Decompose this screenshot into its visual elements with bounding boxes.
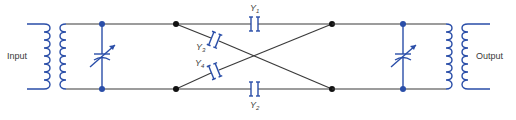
capacitor-label-Y2: Y2	[250, 100, 260, 111]
junction-dot-icon	[400, 86, 406, 92]
capacitor-Y4	[207, 63, 222, 80]
junction-dot-icon	[99, 86, 105, 92]
input-transformer: Input	[7, 24, 66, 89]
junction-dot-icon	[173, 86, 179, 92]
input-primary-coil	[27, 24, 50, 89]
output-primary-coil	[446, 24, 452, 89]
capacitor-label-Y1: Y1	[250, 3, 259, 14]
lattice-section: Y1 Y2 Y3	[173, 3, 335, 111]
capacitor-Y3	[207, 31, 222, 48]
input-secondary-coil	[60, 24, 66, 89]
capacitor-Y1: Y1	[249, 3, 260, 31]
output-transformer: Output	[446, 24, 504, 89]
capacitor-label-Y4: Y4	[195, 58, 205, 69]
capacitor-label-Y3: Y3	[196, 42, 206, 53]
input-variable-capacitor	[90, 21, 115, 92]
output-label: Output	[476, 51, 504, 61]
junction-dot-icon	[400, 21, 406, 27]
output-variable-capacitor	[391, 21, 416, 92]
lattice-circuit-diagram: Input Y1	[0, 0, 516, 120]
input-label: Input	[7, 51, 28, 61]
capacitor-Y2: Y2	[249, 82, 260, 111]
junction-dot-icon	[99, 21, 105, 27]
junction-dot-icon	[173, 21, 179, 27]
